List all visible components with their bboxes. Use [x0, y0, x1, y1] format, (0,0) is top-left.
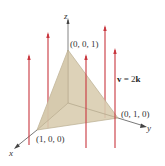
field-equation-equals: = 2 — [122, 74, 136, 84]
z-axis-label: z — [63, 11, 68, 21]
field-unit-vector: k — [136, 74, 141, 84]
field-arrowhead-icon — [84, 54, 87, 60]
y-axis-label: y — [146, 123, 151, 133]
vertex-label-z: (0, 0, 1) — [70, 39, 99, 49]
x-axis — [16, 130, 37, 147]
field-equation-label: v = 2k — [117, 74, 141, 84]
vertex-label-y: (0, 1, 0) — [121, 109, 150, 119]
y-axis-arrowhead-icon — [140, 124, 147, 129]
field-arrowhead-icon — [113, 48, 116, 54]
tetrahedron-diagram: z x y (0, 0, 1) (1, 0, 0) (0, 1, 0) v = … — [0, 0, 165, 166]
vertex-label-x: (1, 0, 0) — [36, 134, 65, 144]
field-arrowhead-icon — [103, 25, 106, 31]
field-arrowhead-icon — [46, 32, 49, 38]
y-axis — [118, 118, 144, 126]
field-arrowhead-icon — [27, 54, 30, 60]
x-axis-label: x — [8, 148, 13, 158]
